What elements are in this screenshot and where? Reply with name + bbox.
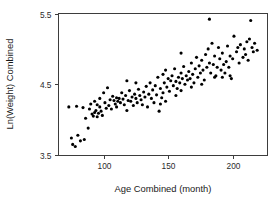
data-point xyxy=(177,76,180,79)
data-point xyxy=(119,101,122,104)
data-point xyxy=(156,76,159,79)
data-point xyxy=(168,90,171,93)
data-point xyxy=(161,91,164,94)
data-point xyxy=(125,109,128,112)
data-point xyxy=(256,49,259,52)
data-point xyxy=(159,103,162,106)
data-point xyxy=(143,95,146,98)
data-point xyxy=(225,60,228,63)
data-point xyxy=(105,107,108,110)
data-point xyxy=(79,139,82,142)
data-point xyxy=(159,87,162,90)
data-point xyxy=(239,43,242,46)
data-point xyxy=(180,89,183,92)
data-point xyxy=(134,97,137,100)
data-point xyxy=(249,19,252,22)
data-point xyxy=(101,114,104,117)
data-point xyxy=(250,46,253,49)
data-point xyxy=(130,95,133,98)
data-point xyxy=(110,107,113,110)
data-point xyxy=(217,46,220,49)
data-point xyxy=(118,97,121,100)
data-point xyxy=(128,89,131,92)
y-tick-label: 5.5 xyxy=(40,10,52,20)
data-point xyxy=(244,53,247,56)
data-point xyxy=(178,81,181,84)
data-point xyxy=(97,112,100,115)
data-point xyxy=(173,67,176,70)
data-point xyxy=(140,98,143,101)
data-point xyxy=(213,54,216,57)
data-point xyxy=(187,70,190,73)
data-point xyxy=(134,81,137,84)
data-point xyxy=(152,101,155,104)
data-point xyxy=(241,56,244,59)
data-point xyxy=(151,88,154,91)
data-point xyxy=(123,103,126,106)
x-axis-title: Age Combined (month) xyxy=(115,183,212,194)
data-point xyxy=(75,105,78,108)
x-tick-label: 100 xyxy=(98,161,112,171)
data-point xyxy=(180,52,183,55)
data-point xyxy=(132,104,135,107)
data-point xyxy=(111,95,114,98)
data-point xyxy=(114,103,117,106)
y-tick-label: 3.5 xyxy=(40,151,52,161)
data-point xyxy=(218,57,221,60)
data-point xyxy=(223,71,226,74)
data-point xyxy=(212,63,215,66)
data-point xyxy=(89,103,92,106)
data-point xyxy=(112,99,115,102)
data-point xyxy=(125,79,128,82)
data-point xyxy=(205,66,208,69)
data-point xyxy=(103,101,106,104)
data-point xyxy=(138,94,141,97)
data-point xyxy=(191,73,194,76)
data-point xyxy=(124,94,127,97)
data-point xyxy=(170,74,173,77)
data-point xyxy=(165,86,168,89)
data-point xyxy=(229,54,232,57)
data-point xyxy=(248,37,251,40)
data-point xyxy=(183,83,186,86)
data-point xyxy=(235,50,238,53)
data-point xyxy=(84,117,87,120)
data-point xyxy=(142,90,145,93)
data-point xyxy=(213,76,216,79)
data-point xyxy=(71,143,74,146)
data-point xyxy=(88,107,91,110)
data-point xyxy=(209,71,212,74)
data-point xyxy=(121,98,124,101)
data-point xyxy=(253,42,256,45)
y-tick-label: 4.5 xyxy=(40,80,52,90)
data-point xyxy=(221,52,224,55)
data-point xyxy=(146,105,149,108)
data-point xyxy=(107,104,110,107)
data-point xyxy=(252,50,255,53)
data-point xyxy=(149,81,152,84)
data-point xyxy=(243,47,246,50)
data-point xyxy=(115,105,118,108)
data-point xyxy=(174,94,177,97)
x-tick-label: 200 xyxy=(227,161,241,171)
data-point xyxy=(141,103,144,106)
data-point xyxy=(96,115,99,118)
data-point xyxy=(74,145,77,148)
data-point xyxy=(226,45,229,48)
plot-svg: 100150200 3.54.55.5 Age Combined (month)… xyxy=(0,0,278,200)
data-point xyxy=(136,101,139,104)
data-point xyxy=(161,73,164,76)
data-point xyxy=(96,103,99,106)
data-point xyxy=(230,77,233,80)
data-point xyxy=(208,61,211,64)
data-point xyxy=(94,109,97,112)
data-point xyxy=(120,91,123,94)
data-point xyxy=(194,67,197,70)
data-point xyxy=(158,110,161,113)
data-point xyxy=(150,97,153,100)
data-point xyxy=(102,91,105,94)
data-point xyxy=(87,127,90,130)
data-point xyxy=(147,93,150,96)
x-tick-label: 150 xyxy=(162,161,176,171)
data-point xyxy=(167,77,170,80)
